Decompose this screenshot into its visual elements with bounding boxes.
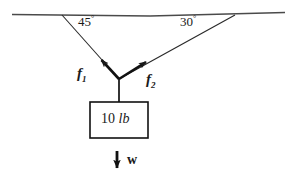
angle-label-left: 45°	[78, 15, 94, 28]
angle-left-value: 45	[78, 14, 91, 29]
ceiling-line-right	[150, 13, 285, 17]
force-subscript-f1: 1	[82, 74, 87, 84]
force-diagram: 45° 30° f1 f2 10 lb w	[0, 0, 296, 183]
angle-right-value: 30	[180, 14, 193, 29]
degree-symbol-right: °	[193, 14, 196, 23]
degree-symbol-left: °	[91, 14, 94, 23]
force-subscript-f2: 2	[151, 80, 156, 90]
force-diagram-canvas	[0, 0, 296, 183]
mass-block-label: 10 lb	[101, 112, 129, 126]
mass-unit: lb	[119, 111, 130, 126]
force-vector-f1	[102, 60, 120, 79]
angle-label-right: 30°	[180, 15, 196, 28]
force-label-f1: f1	[77, 66, 87, 84]
mass-value: 10	[101, 111, 115, 126]
force-label-f2: f2	[146, 72, 156, 90]
weight-label: w	[127, 153, 137, 167]
force-vector-f2	[119, 62, 146, 79]
